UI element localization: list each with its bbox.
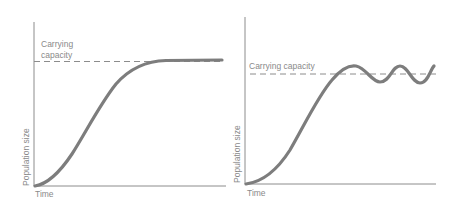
left-carrying-capacity-label-line2: capacity [41, 51, 72, 60]
left-y-axis-label: Population size [22, 128, 31, 186]
right-plot [245, 17, 436, 184]
left-carrying-capacity-label-line1: Carrying [41, 40, 73, 49]
left-x-axis-label: Time [35, 190, 54, 199]
right-y-axis-label: Population size [233, 125, 242, 183]
left-logistic-curve [35, 60, 222, 186]
right-carrying-capacity-label: Carrying capacity [249, 62, 315, 71]
figure: Carrying capacity Population size Time C… [0, 0, 452, 210]
right-x-axis-label: Time [247, 189, 266, 198]
right-oscillating-curve [246, 66, 434, 184]
figure-svg [0, 0, 452, 210]
